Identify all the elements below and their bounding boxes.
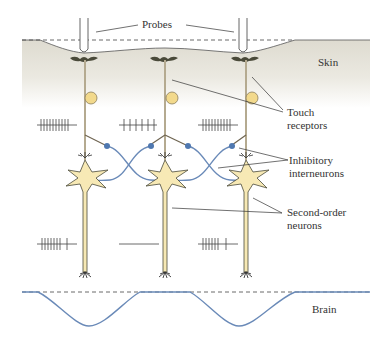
label-inhibitory-interneurons: Inhibitory interneurons bbox=[289, 154, 344, 180]
label-inhibitory-line2: interneurons bbox=[289, 167, 344, 180]
label-touch-receptors-line2: receptors bbox=[287, 119, 327, 132]
label-second-order-line2: neurons bbox=[287, 219, 346, 232]
label-skin: Skin bbox=[318, 56, 338, 69]
interneuron-somata bbox=[104, 143, 235, 149]
axon-terminals bbox=[79, 272, 252, 278]
probe-right bbox=[239, 18, 247, 52]
second-order-neurons bbox=[66, 160, 269, 272]
second-order-neuron-3 bbox=[227, 160, 269, 272]
label-brain: Brain bbox=[312, 303, 336, 316]
label-probes: Probes bbox=[142, 18, 172, 31]
receptor-spike-trains bbox=[37, 119, 238, 131]
second-order-neuron-1 bbox=[66, 160, 108, 272]
skin-layer bbox=[22, 40, 370, 108]
probes-leader-right bbox=[186, 25, 234, 32]
probe-left bbox=[80, 18, 88, 52]
second-order-neuron-2 bbox=[146, 160, 188, 272]
second-order-spike-trains bbox=[37, 238, 238, 250]
label-touch-receptors: Touch receptors bbox=[287, 106, 327, 132]
label-second-order-neurons: Second-order neurons bbox=[287, 206, 346, 232]
label-second-order-line1: Second-order bbox=[287, 206, 346, 219]
label-touch-receptors-line1: Touch bbox=[287, 106, 327, 119]
probes-leader-left bbox=[96, 25, 138, 32]
label-inhibitory-line1: Inhibitory bbox=[289, 154, 344, 167]
